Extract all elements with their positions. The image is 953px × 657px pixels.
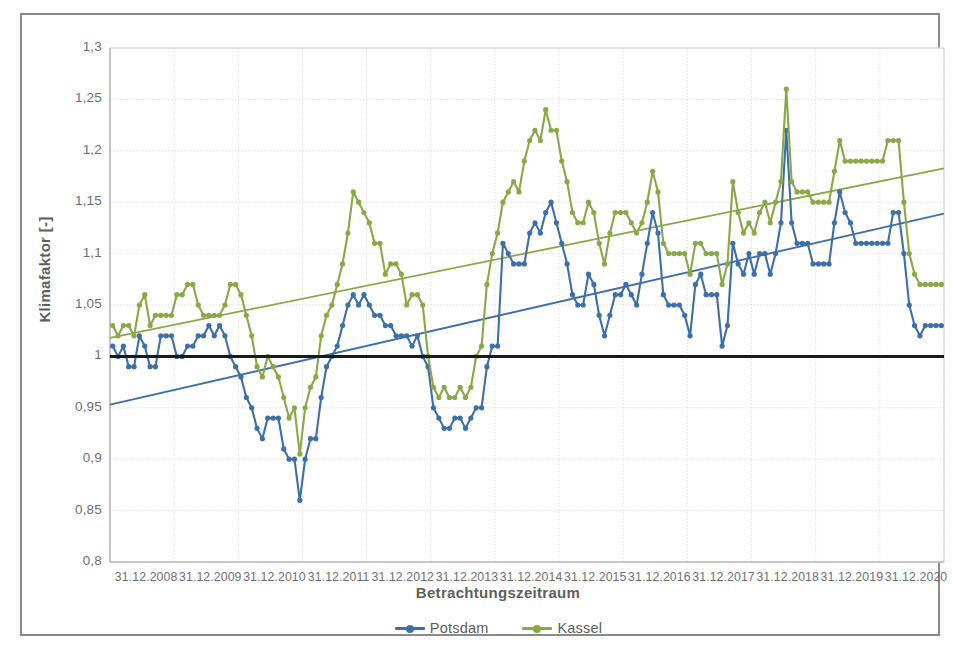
- series-marker: [687, 272, 692, 277]
- series-marker: [666, 302, 671, 307]
- series-marker: [244, 395, 249, 400]
- series-marker: [511, 179, 516, 184]
- series-marker: [169, 313, 174, 318]
- series-marker: [816, 261, 821, 266]
- series-marker: [714, 292, 719, 297]
- series-marker: [928, 323, 933, 328]
- series-marker: [153, 364, 158, 369]
- series-marker: [303, 405, 308, 410]
- series-marker: [495, 344, 500, 349]
- series-marker: [575, 220, 580, 225]
- series-marker: [810, 261, 815, 266]
- series-marker: [297, 498, 302, 503]
- series-marker: [736, 210, 741, 215]
- series-marker: [837, 138, 842, 143]
- series-marker: [581, 302, 586, 307]
- series-marker: [212, 333, 217, 338]
- series-marker: [137, 302, 142, 307]
- series-marker: [586, 272, 591, 277]
- series-marker: [933, 282, 938, 287]
- series-marker: [543, 107, 548, 112]
- series-marker: [431, 405, 436, 410]
- series-marker: [126, 323, 131, 328]
- series-marker: [639, 272, 644, 277]
- series-marker: [762, 251, 767, 256]
- series-marker: [714, 251, 719, 256]
- series-marker: [837, 189, 842, 194]
- series-marker: [810, 200, 815, 205]
- series-marker: [650, 210, 655, 215]
- series-marker: [447, 395, 452, 400]
- series-marker: [613, 292, 618, 297]
- series-marker: [639, 220, 644, 225]
- series-marker: [420, 302, 425, 307]
- series-marker: [645, 200, 650, 205]
- series-marker: [110, 344, 115, 349]
- series-marker: [805, 189, 810, 194]
- series-marker: [297, 451, 302, 456]
- y-tick-label: 1,1: [50, 245, 102, 260]
- series-marker: [687, 333, 692, 338]
- series-marker: [896, 210, 901, 215]
- series-marker: [212, 313, 217, 318]
- series-marker: [725, 323, 730, 328]
- series-marker: [452, 395, 457, 400]
- series-marker: [351, 292, 356, 297]
- series-marker: [522, 158, 527, 163]
- series-marker: [677, 251, 682, 256]
- series-marker: [859, 158, 864, 163]
- series-marker: [484, 364, 489, 369]
- series-marker: [607, 313, 612, 318]
- legend-item-potsdam[interactable]: Potsdam: [395, 620, 489, 636]
- series-marker: [351, 189, 356, 194]
- series-marker: [340, 323, 345, 328]
- series-marker: [538, 230, 543, 235]
- series-marker: [885, 138, 890, 143]
- x-axis-title: Betrachtungszeitraum: [322, 584, 674, 601]
- series-marker: [789, 220, 794, 225]
- series-marker: [361, 210, 366, 215]
- y-tick-label: 0,95: [50, 399, 102, 414]
- series-marker: [196, 333, 201, 338]
- series-marker: [372, 241, 377, 246]
- series-marker: [554, 220, 559, 225]
- series-marker: [548, 200, 553, 205]
- legend-label: Potsdam: [430, 620, 489, 636]
- series-marker: [746, 220, 751, 225]
- series-marker: [800, 241, 805, 246]
- series-marker: [581, 220, 586, 225]
- series-marker: [671, 251, 676, 256]
- series-marker: [869, 241, 874, 246]
- series-marker: [698, 241, 703, 246]
- series-marker: [201, 333, 206, 338]
- series-marker: [741, 272, 746, 277]
- series-marker: [778, 179, 783, 184]
- x-tick-label: 31.12.2020: [870, 570, 953, 584]
- series-marker: [238, 374, 243, 379]
- series-marker: [736, 261, 741, 266]
- series-marker: [768, 220, 773, 225]
- series-marker: [693, 282, 698, 287]
- series-marker: [399, 333, 404, 338]
- y-tick-label: 0,8: [50, 553, 102, 568]
- series-marker: [859, 241, 864, 246]
- series-marker: [816, 200, 821, 205]
- series-marker: [458, 385, 463, 390]
- series-marker: [917, 333, 922, 338]
- chart-plot-container: Klimafaktor [-] Betrachtungszeitraum 1,3…: [22, 15, 953, 657]
- series-marker: [559, 241, 564, 246]
- series-marker: [671, 302, 676, 307]
- series-marker: [158, 333, 163, 338]
- legend-item-kassel[interactable]: Kassel: [522, 620, 602, 636]
- series-marker: [367, 302, 372, 307]
- series-marker: [885, 241, 890, 246]
- series-marker: [463, 426, 468, 431]
- series-marker: [431, 385, 436, 390]
- series-marker: [270, 364, 275, 369]
- series-marker: [506, 189, 511, 194]
- series-marker: [303, 457, 308, 462]
- series-marker: [196, 302, 201, 307]
- series-marker: [180, 292, 185, 297]
- series-marker: [201, 313, 206, 318]
- series-marker: [923, 323, 928, 328]
